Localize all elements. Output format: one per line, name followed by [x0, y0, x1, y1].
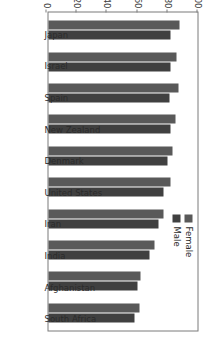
category-label: Japan [1, 13, 45, 45]
category-label: New Zealand [1, 108, 45, 140]
category-label-text: United States [44, 187, 102, 197]
bar-female [48, 146, 172, 155]
category-label-text: New Zealand [44, 124, 100, 134]
category-label-text: Japan [44, 29, 68, 39]
bar-group [48, 77, 197, 108]
category-label: India [1, 234, 45, 266]
category-label-text: Afghanistan [44, 282, 95, 292]
bar-female [48, 209, 163, 218]
bar-female [48, 271, 140, 280]
legend-item[interactable]: Male [171, 214, 181, 257]
bar-female [48, 303, 139, 312]
category-label: South Africa [1, 297, 45, 329]
legend-item[interactable]: Female [183, 214, 193, 257]
legend-swatch-icon [172, 214, 180, 222]
legend-item-label: Female [183, 226, 193, 257]
bar-female [48, 52, 176, 61]
bar-chart-figure: 020406080100 JapanIsraelSpainNew Zealand… [0, 0, 212, 343]
category-label-text: India [44, 250, 65, 260]
bar-male [48, 219, 158, 228]
category-label: Afghanistan [1, 266, 45, 298]
category-label: United States [1, 171, 45, 203]
legend-item-label: Male [171, 226, 181, 246]
bar-group [48, 14, 197, 45]
category-label-text: Iran [44, 218, 61, 228]
category-label-text: Israel [44, 60, 67, 70]
category-axis-labels: JapanIsraelSpainNew ZealandDenmarkUnited… [1, 11, 45, 331]
category-label-text: Spain [44, 92, 68, 102]
rotated-figure-wrapper: 020406080100 JapanIsraelSpainNew Zealand… [0, 0, 212, 343]
category-label: Israel [1, 45, 45, 77]
chart-page: 020406080100 JapanIsraelSpainNew Zealand… [0, 0, 212, 343]
bar-female [48, 240, 154, 249]
category-label-text: Denmark [44, 155, 83, 165]
bar-female [48, 20, 179, 29]
legend-swatch-icon [184, 214, 192, 222]
chart-legend: FemaleMale [171, 214, 193, 257]
category-label: Iran [1, 203, 45, 235]
bar-female [48, 177, 170, 186]
category-label-text: South Africa [44, 313, 96, 323]
category-label: Spain [1, 76, 45, 108]
category-label: Denmark [1, 139, 45, 171]
bar-female [48, 114, 175, 123]
bar-group [48, 45, 197, 76]
bar-female [48, 83, 178, 92]
